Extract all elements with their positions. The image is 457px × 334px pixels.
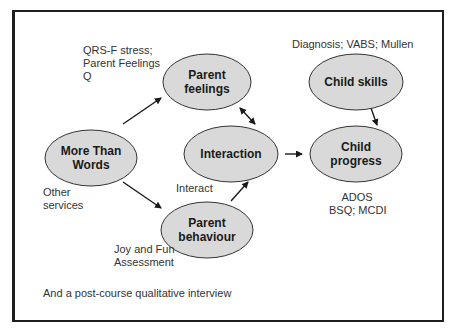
parent-feelings-measures-note: QRS-F stress; Parent Feelings Q bbox=[83, 44, 160, 83]
node-parent-behaviour: Parentbehaviour bbox=[161, 202, 253, 258]
node-label: feelings bbox=[184, 82, 230, 96]
child-skills-measures-note: Diagnosis; VABS; Mullen bbox=[292, 38, 413, 51]
node-interaction: Interaction bbox=[184, 126, 278, 182]
child-progress-measures-note: ADOS BSQ; MCDI bbox=[329, 191, 385, 217]
node-parent-feelings: Parentfeelings bbox=[163, 54, 251, 110]
node-label: Words bbox=[72, 158, 109, 172]
arrow-child-skills-to-child-progress bbox=[371, 108, 377, 125]
node-child-progress: Childprogress bbox=[310, 126, 402, 182]
arrow-more-than-words-to-parent-feelings bbox=[123, 98, 161, 124]
footer-note: And a post-course qualitative interview bbox=[43, 287, 231, 300]
node-label: Parent bbox=[188, 68, 225, 82]
node-more-than-words: More ThanWords bbox=[45, 130, 137, 186]
interact-note: Interact bbox=[176, 182, 213, 195]
node-child-skills: Child skills bbox=[309, 54, 403, 110]
node-label: Child bbox=[341, 140, 371, 154]
node-label: Child skills bbox=[324, 75, 388, 89]
other-services-note: Other services bbox=[43, 186, 83, 212]
node-label: behaviour bbox=[178, 230, 236, 244]
nodes-layer: ParentfeelingsMore ThanWordsInteractionP… bbox=[45, 54, 403, 258]
node-label: Interaction bbox=[200, 147, 261, 161]
node-label: Parent bbox=[188, 216, 225, 230]
node-label: progress bbox=[330, 154, 382, 168]
arrow-parent-behaviour-to-interaction bbox=[231, 182, 248, 201]
joy-and-fun-note: Joy and Fun Assessment bbox=[114, 243, 175, 269]
arrow-parent-feelings-to-interaction bbox=[240, 108, 255, 124]
arrow-more-than-words-to-parent-behaviour bbox=[123, 182, 161, 208]
node-label: More Than bbox=[61, 144, 122, 158]
